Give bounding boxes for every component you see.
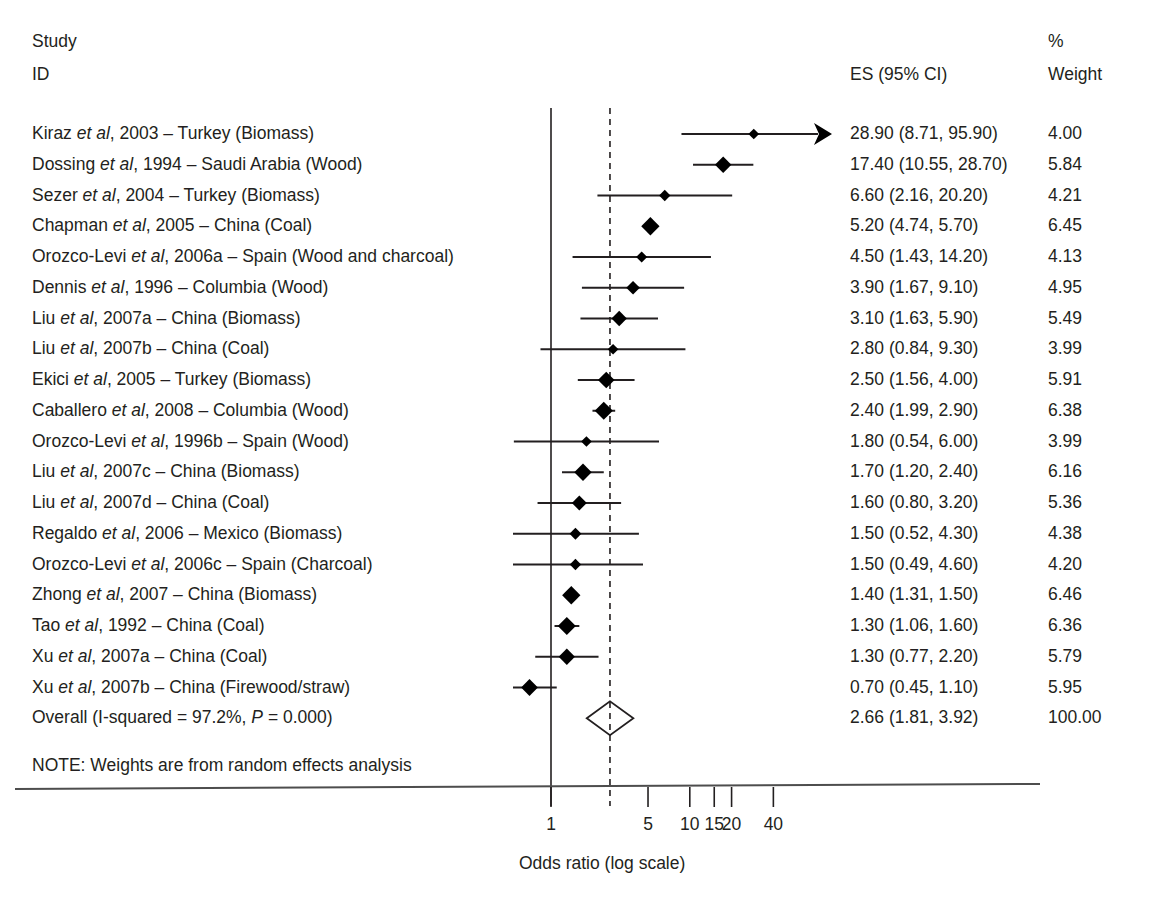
forest-row-marker <box>580 311 658 326</box>
point-estimate-marker <box>558 617 576 635</box>
point-estimate-marker <box>581 436 592 447</box>
forest-row-marker <box>597 190 732 201</box>
point-estimate-marker <box>570 559 581 570</box>
forest-row-marker <box>592 402 615 420</box>
forest-row-marker <box>513 679 557 696</box>
forest-row-marker <box>540 344 685 355</box>
point-estimate-marker <box>598 372 615 389</box>
point-estimate-marker <box>559 649 575 665</box>
plot-graphics <box>0 0 1157 899</box>
point-estimate-marker <box>659 190 670 201</box>
point-estimate-marker <box>572 496 587 511</box>
point-estimate-marker <box>748 129 759 140</box>
point-estimate-marker <box>574 464 591 481</box>
forest-row-marker <box>562 464 604 481</box>
point-estimate-marker <box>636 251 647 262</box>
forest-row-marker <box>514 436 659 447</box>
forest-row-marker <box>693 157 753 173</box>
forest-row-marker <box>562 586 580 604</box>
forest-plot-figure: Study ID ES (95% CI) % Weight NOTE: Weig… <box>0 0 1157 899</box>
forest-row-marker <box>641 217 659 235</box>
forest-row-marker <box>573 251 711 262</box>
forest-row-marker <box>513 559 643 570</box>
forest-row-marker <box>578 372 635 389</box>
forest-row-marker <box>582 281 684 295</box>
point-estimate-marker <box>569 528 581 540</box>
point-estimate-marker <box>562 586 580 604</box>
forest-row-marker <box>538 496 622 511</box>
point-estimate-marker <box>715 157 731 173</box>
forest-row-marker <box>513 528 639 540</box>
point-estimate-marker <box>626 281 640 295</box>
point-estimate-marker <box>612 311 627 326</box>
point-estimate-marker <box>521 679 538 696</box>
forest-row-marker <box>535 649 598 665</box>
forest-row-marker <box>681 123 832 145</box>
point-estimate-marker <box>641 217 659 235</box>
axis-baseline <box>15 784 1040 789</box>
forest-row-marker <box>555 617 580 635</box>
